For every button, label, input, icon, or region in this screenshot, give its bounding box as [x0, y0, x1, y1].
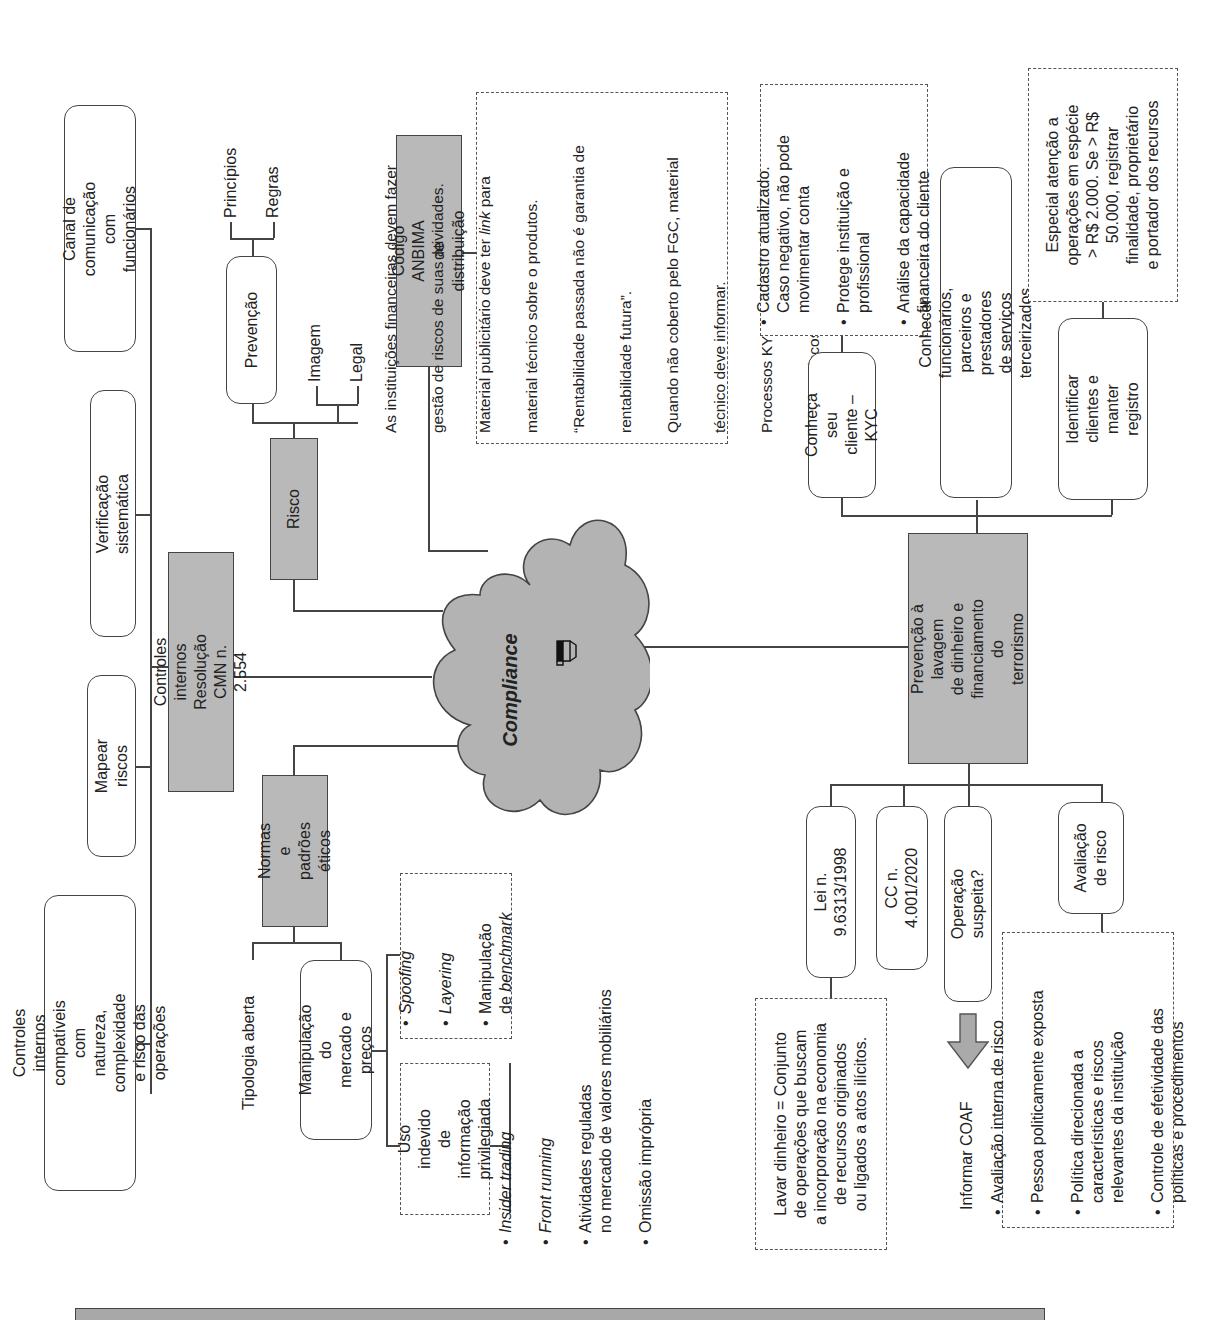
- node-label: Mapear riscos: [92, 739, 132, 793]
- connector: [293, 745, 295, 777]
- node-title: Prevenção à lavagem de dinheiro e financ…: [908, 599, 1028, 699]
- node-label: Conheça seu cliente – KYC: [802, 393, 882, 457]
- node-controles-compativeis: Controles internos compatíveis com natur…: [44, 895, 136, 1191]
- connector: [293, 926, 295, 942]
- note-uso-indevido-examples: Insider trading Front running Atividades…: [518, 975, 634, 1235]
- connector: [316, 404, 358, 406]
- node-prevencao: Prevenção: [226, 256, 277, 404]
- node-label: Lei n. 9.6313/1998: [811, 848, 851, 937]
- connector: [252, 404, 254, 422]
- node-label: Operação suspeita?: [948, 869, 988, 939]
- node-verificacao-sistematica: Verificação sistemática: [90, 390, 136, 637]
- node-label: Verificação sistemática: [93, 473, 133, 553]
- node-label: CC n. 4.001/2020: [882, 848, 922, 928]
- connector: [135, 514, 151, 516]
- node-normas-padroes-eticos: Normas e padrões éticos: [262, 775, 328, 927]
- note-anbima: As instituições financeiras devem fazer …: [476, 92, 728, 444]
- connector: [252, 942, 254, 960]
- node-conhecer-funcionarios: Conhecer funcionários, parceiros e prest…: [940, 167, 1012, 498]
- connector: [252, 942, 342, 944]
- connector: [830, 784, 832, 806]
- note-text: Insider trading Front running Atividades…: [456, 965, 696, 1245]
- node-mapear-riscos: Mapear riscos: [87, 675, 136, 857]
- node-lei-9613: Lei n. 9.6313/1998: [806, 806, 856, 978]
- connector: [316, 386, 318, 404]
- node-identificar-clientes: Identificar clientes e manter registro: [1058, 318, 1148, 500]
- connector: [976, 500, 978, 534]
- connector: [1102, 300, 1104, 320]
- label-tipologia-aberta: Tipologia aberta: [240, 996, 258, 1110]
- node-label: Avaliação de risco: [1071, 823, 1111, 892]
- connector: [230, 238, 274, 240]
- node-label: Canal de comunicação com funcionários: [60, 181, 140, 275]
- connector: [135, 766, 151, 768]
- node-label: Conhecer funcionários, parceiros e prest…: [916, 287, 1036, 378]
- connector: [903, 784, 905, 806]
- node-canal-comunicacao: Canal de comunicação com funcionários: [64, 105, 136, 352]
- node-controles-internos: Controles internos Resolução CMN n. 2.55…: [168, 552, 234, 792]
- cloud-compliance: [410, 470, 650, 830]
- note-text: Lavar dinheiro = Conjunto de operações q…: [771, 1004, 871, 1244]
- label-principios: Princípios: [222, 148, 240, 218]
- connector: [630, 646, 908, 648]
- connector: [830, 976, 832, 1000]
- connector: [830, 784, 1102, 786]
- node-title: Risco: [284, 489, 304, 529]
- connector: [968, 784, 970, 806]
- label-regras: Regras: [264, 166, 282, 218]
- connector: [968, 763, 970, 785]
- note-lavar-dinheiro: Lavar dinheiro = Conjunto de operações q…: [755, 998, 887, 1250]
- node-label: Prevenção: [242, 292, 262, 369]
- node-conheca-seu-cliente: Conheça seu cliente – KYC: [808, 352, 876, 498]
- connector: [841, 497, 843, 515]
- node-risco: Risco: [270, 438, 318, 580]
- note-identificar: Especial atenção a operações em espécie …: [1028, 68, 1178, 302]
- bottom-bar: [75, 1308, 1045, 1320]
- note-text: Especial atenção a operações em espécie …: [1043, 75, 1163, 295]
- connector: [337, 404, 339, 422]
- note-text: Avaliação interna de risco Pessoa politi…: [948, 945, 1228, 1215]
- note-avaliacao-risco: Avaliação interna de risco Pessoa politi…: [1002, 932, 1174, 1228]
- node-label: Identificar clientes e manter registro: [1063, 374, 1143, 443]
- connector: [1101, 913, 1103, 933]
- label-imagem: Imagem: [306, 324, 324, 382]
- node-title: Controles internos Resolução CMN n. 2.55…: [151, 634, 251, 710]
- books-icon: [552, 635, 582, 669]
- cloud-title: Compliance: [490, 620, 530, 760]
- connector: [293, 580, 295, 610]
- node-cc-4001: CC n. 4.001/2020: [876, 806, 928, 970]
- connector: [252, 238, 254, 258]
- node-prevencao-lavagem: Prevenção à lavagem de dinheiro e financ…: [908, 533, 1028, 764]
- node-avaliacao-risco: Avaliação de risco: [1058, 802, 1124, 914]
- node-title: Normas e padrões éticos: [255, 822, 335, 880]
- connector: [841, 515, 1112, 517]
- connector: [273, 222, 275, 238]
- connector: [232, 676, 432, 678]
- connector: [340, 942, 342, 962]
- node-label: Controles internos compatíveis com natur…: [10, 994, 170, 1093]
- connector: [252, 422, 358, 424]
- connector: [230, 222, 232, 238]
- note-kyc: Cadastro atualizado. Caso negativo, não …: [760, 84, 928, 336]
